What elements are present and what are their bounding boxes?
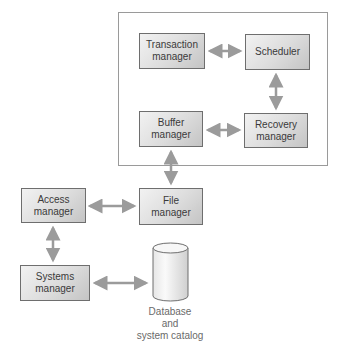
box-label: manager <box>34 206 73 218</box>
caption-line: Database <box>110 306 230 318</box>
box-label: Buffer <box>151 117 190 129</box>
box-label: File <box>151 195 190 207</box>
database-cylinder-icon <box>152 242 189 302</box>
access-manager-box: Accessmanager <box>21 188 86 223</box>
box-label: manager <box>255 131 297 143</box>
box-label: Scheduler <box>255 46 300 58</box>
transaction-manager-box: Transactionmanager <box>139 33 205 69</box>
box-label: manager <box>151 207 190 219</box>
box-label: manager <box>146 51 198 63</box>
caption-line: system catalog <box>110 330 230 342</box>
box-label: Access <box>34 194 73 206</box>
box-label: manager <box>151 129 190 141</box>
box-label: Systems <box>35 271 74 283</box>
box-label: Recovery <box>255 119 297 131</box>
buffer-manager-box: Buffermanager <box>139 111 203 147</box>
file-manager-box: Filemanager <box>139 188 203 225</box>
systems-manager-box: Systemsmanager <box>20 265 90 301</box>
scheduler-box: Scheduler <box>245 34 310 70</box>
caption-line: and <box>110 318 230 330</box>
box-label: Transaction <box>146 39 198 51</box>
recovery-manager-box: Recoverymanager <box>244 113 308 148</box>
box-label: manager <box>35 283 74 295</box>
database-caption: Database and system catalog <box>110 306 230 342</box>
